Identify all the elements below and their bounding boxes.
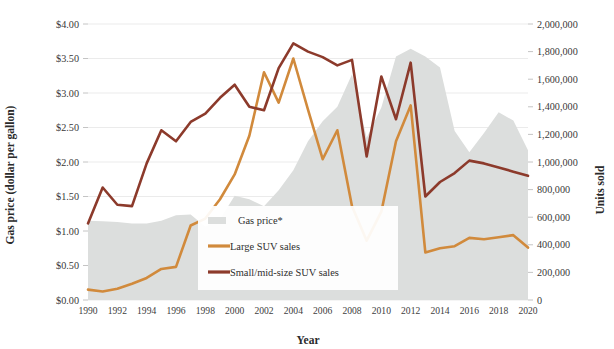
legend: Gas price*Large SUV salesSmall/mid-size … xyxy=(198,206,398,290)
x-axis-tick-label: 2008 xyxy=(342,305,361,316)
x-axis-tick-label: 2002 xyxy=(254,305,273,316)
y-axis-left-tick-label: $1.50 xyxy=(56,191,79,202)
y-axis-right-tick-label: 1,000,000 xyxy=(537,157,578,168)
x-axis-tick-label: 2020 xyxy=(518,305,537,316)
y-axis-left-tick-label: $4.00 xyxy=(56,19,79,30)
y-axis-left-tick-label: $1.00 xyxy=(56,226,79,237)
x-axis-tick-label: 1998 xyxy=(196,305,215,316)
y-axis-left-tick-label: $2.00 xyxy=(56,157,79,168)
x-axis-tick-label: 2004 xyxy=(284,305,303,316)
x-axis-tick-label: 2012 xyxy=(401,305,420,316)
y-axis-right-tick-label: 600,000 xyxy=(537,212,570,223)
x-axis-tick-label: 2016 xyxy=(460,305,479,316)
y-axis-right-tick-label: 1,600,000 xyxy=(537,74,578,85)
x-axis-tick-label: 1994 xyxy=(137,305,156,316)
y-axis-right-tick-label: 0 xyxy=(537,295,542,306)
line-chart: $0.00$0.50$1.00$1.50$2.00$2.50$3.00$3.50… xyxy=(0,0,614,349)
y-axis-left-tick-label: $2.50 xyxy=(56,122,79,133)
x-axis-tick-label: 1996 xyxy=(166,305,185,316)
y-axis-right-tick-label: 400,000 xyxy=(537,239,570,250)
legend-item-label: Small/mid-size SUV sales xyxy=(230,267,339,278)
x-axis-tick-label: 2000 xyxy=(225,305,244,316)
y-axis-left-title: Gas price (dollar per gallon) xyxy=(4,105,17,244)
chart-container: $0.00$0.50$1.00$1.50$2.00$2.50$3.00$3.50… xyxy=(0,0,614,349)
legend-item-label: Large SUV sales xyxy=(230,241,300,252)
y-axis-left-tick-label: $0.00 xyxy=(56,295,79,306)
legend-swatch-icon xyxy=(208,217,226,224)
legend-item-label: Gas price* xyxy=(238,215,283,226)
x-axis-tick-label: 2010 xyxy=(372,305,391,316)
x-axis-tick-label: 1990 xyxy=(78,305,97,316)
y-axis-right-tick-label: 200,000 xyxy=(537,267,570,278)
y-axis-right-tick-label: 1,800,000 xyxy=(537,46,578,57)
x-axis-title: Year xyxy=(297,334,320,346)
y-axis-right-tick-label: 2,000,000 xyxy=(537,19,578,30)
y-axis-left-tick-label: $0.50 xyxy=(56,260,79,271)
x-axis-tick-label: 2014 xyxy=(430,305,449,316)
y-axis-right-tick-label: 1,200,000 xyxy=(537,129,578,140)
x-axis-tick-label: 1992 xyxy=(108,305,127,316)
y-axis-right-tick-label: 1,400,000 xyxy=(537,101,578,112)
y-axis-right-title: Units sold xyxy=(594,165,606,214)
y-axis-left-tick-label: $3.50 xyxy=(56,53,79,64)
y-axis-right-tick-label: 800,000 xyxy=(537,184,570,195)
x-axis-tick-label: 2006 xyxy=(313,305,332,316)
y-axis-left-tick-label: $3.00 xyxy=(56,88,79,99)
x-axis-tick-label: 2018 xyxy=(489,305,508,316)
y-axis-left-labels: $0.00$0.50$1.00$1.50$2.00$2.50$3.00$3.50… xyxy=(56,19,79,306)
